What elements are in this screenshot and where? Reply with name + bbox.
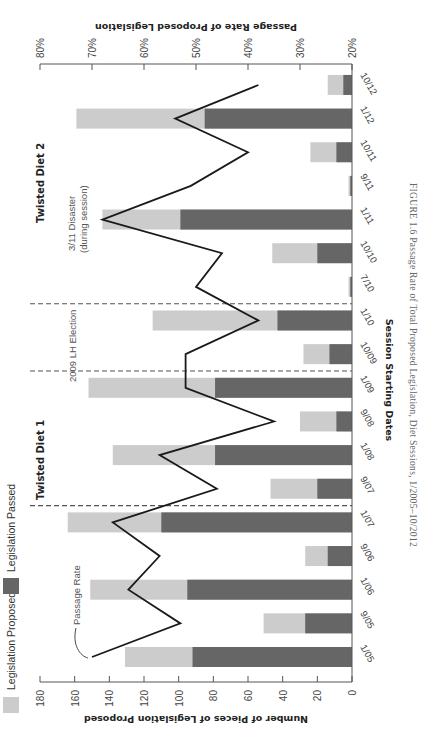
bar-passed — [305, 613, 352, 633]
bar-passed — [215, 445, 352, 465]
category-label: 1/11 — [358, 205, 376, 226]
disaster-label-line2: (during session) — [78, 185, 89, 253]
category-label: 10/09 — [358, 340, 379, 366]
category-label: 10/12 — [358, 70, 379, 96]
bar-passed — [193, 647, 352, 667]
category-label: 10/11 — [358, 138, 379, 163]
x-axis-title: Session Starting Dates — [384, 319, 395, 442]
lh-election-label: 2009 LH Election — [67, 310, 78, 382]
bar-passed — [317, 243, 352, 263]
legend: Legislation Proposed Legislation Passed — [3, 484, 19, 713]
passage-rate-chart: 02040608010012014016018020%30%40%50%60%7… — [0, 0, 422, 730]
category-label: 1/07 — [358, 508, 377, 530]
twisted-diet-2-label: Twisted Diet 2 — [35, 143, 46, 223]
legend-label-passed: Legislation Passed — [5, 484, 17, 572]
left-axis-tick-label: 80 — [208, 690, 219, 702]
y-axis-title: Number of Pieces of Legislation Proposed — [84, 714, 308, 725]
left-axis-tick-label: 160 — [70, 690, 81, 707]
left-axis-tick-label: 140 — [104, 690, 115, 707]
category-labels: 1/059/051/069/061/079/071/089/081/0910/0… — [358, 70, 379, 664]
bar-passed — [317, 479, 352, 499]
y2-axis-title: Passage Rate of Proposed Legislation — [95, 22, 297, 33]
right-axis-tick-label: 60% — [139, 38, 150, 58]
category-label: 1/12 — [358, 104, 377, 126]
left-axis-tick-label: 60 — [243, 690, 254, 702]
left-axis-tick-label: 0 — [347, 690, 358, 696]
category-label: 9/06 — [358, 542, 377, 564]
bar-passed — [336, 411, 352, 431]
left-axis-tick-label: 20 — [312, 690, 323, 702]
category-label: 1/08 — [358, 441, 377, 463]
right-axis-tick-label: 40% — [243, 38, 254, 58]
legend-swatch-passed — [3, 578, 19, 594]
twisted-diet-1-label: Twisted Diet 1 — [35, 420, 46, 500]
legend-label-proposed: Legislation Proposed — [5, 592, 17, 690]
category-label: 9/08 — [358, 407, 377, 429]
bar-passed — [328, 546, 352, 566]
disaster-label-line1: 3/11 Disaster — [66, 196, 77, 251]
category-label: 9/11 — [358, 171, 376, 192]
bar-passed — [329, 344, 352, 364]
bar-passed — [161, 512, 352, 532]
right-axis-tick-label: 30% — [295, 38, 306, 58]
bar-passed — [343, 75, 352, 95]
left-axis-tick-label: 120 — [139, 690, 150, 707]
figure-caption: FIGURE 1.6 Passage Rate of Total Propose… — [408, 183, 418, 547]
category-label: 1/10 — [358, 306, 377, 328]
legend-swatch-proposed — [3, 697, 19, 713]
bar-passed — [277, 311, 352, 331]
bar-passed — [215, 378, 352, 398]
right-axis-tick-label: 80% — [35, 38, 46, 58]
category-label: 9/05 — [358, 609, 377, 631]
category-label: 7/10 — [358, 272, 377, 294]
left-axis-tick-label: 40 — [278, 690, 289, 702]
category-label: 1/05 — [358, 643, 377, 665]
bar-passed — [180, 210, 352, 230]
category-label: 1/09 — [358, 373, 377, 395]
dashed-markers — [30, 304, 352, 506]
bar-passed — [187, 580, 352, 600]
category-label: 10/10 — [358, 239, 379, 265]
bar-passed — [336, 142, 352, 162]
passage-rate-label: Passage Rate — [71, 565, 82, 625]
category-label: 1/06 — [358, 575, 377, 597]
left-axis-tick-label: 100 — [174, 690, 185, 707]
axes-group: 02040608010012014016018020%30%40%50%60%7… — [35, 38, 358, 707]
bar-passed — [205, 109, 352, 129]
passage-rate-pointer — [75, 628, 88, 658]
category-label: 9/07 — [358, 474, 377, 496]
right-axis-tick-label: 70% — [87, 38, 98, 58]
left-axis-tick-label: 180 — [35, 690, 46, 707]
right-axis-tick-label: 50% — [191, 38, 202, 58]
right-axis-tick-label: 20% — [347, 38, 358, 58]
